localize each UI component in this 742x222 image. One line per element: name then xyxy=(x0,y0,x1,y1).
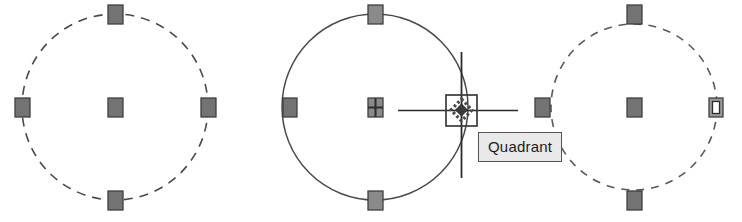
entity-circle-left[interactable] xyxy=(15,5,216,210)
entity-circle-right[interactable] xyxy=(535,5,723,210)
grip-quadrant-bottom[interactable] xyxy=(108,191,123,210)
grip-quadrant-left[interactable] xyxy=(15,98,30,117)
grip-center[interactable] xyxy=(627,98,642,117)
drawing-area[interactable] xyxy=(0,0,742,222)
osnap-tooltip: Quadrant xyxy=(478,132,562,162)
grip-quadrant-right[interactable] xyxy=(709,98,723,117)
grip-quadrant-bottom[interactable] xyxy=(368,191,383,210)
grip-quadrant-left[interactable] xyxy=(535,98,550,117)
grip-quadrant-top[interactable] xyxy=(368,5,383,24)
grip-quadrant-top[interactable] xyxy=(627,5,642,24)
grip-quadrant-top[interactable] xyxy=(108,5,123,24)
grip-quadrant-bottom[interactable] xyxy=(627,191,642,210)
entity-circle-middle[interactable] xyxy=(282,5,468,210)
grip-center[interactable] xyxy=(368,98,383,117)
cad-drawing-canvas[interactable]: Quadrant xyxy=(0,0,742,222)
grip-center[interactable] xyxy=(108,98,123,117)
osnap-tooltip-label: Quadrant xyxy=(488,138,552,155)
grip-quadrant-right[interactable] xyxy=(201,98,216,117)
grip-quadrant-left[interactable] xyxy=(283,98,297,117)
